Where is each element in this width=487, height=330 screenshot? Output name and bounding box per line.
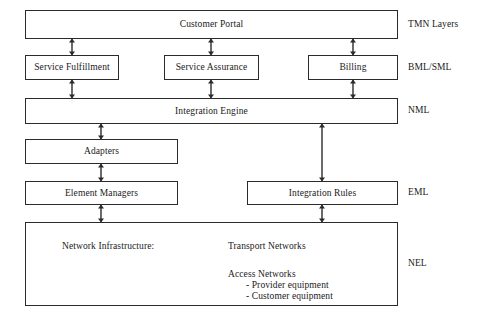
network-infrastructure-list: Transport Networks Access Networks - Pro… [228, 241, 333, 302]
connector-portal-billing [347, 38, 359, 56]
connector-assurance-engine [205, 79, 217, 99]
box-element-managers-label: Element Managers [65, 188, 138, 199]
box-integration-engine-label: Integration Engine [175, 106, 248, 117]
layer-label-bml-sml: BML/SML [408, 62, 451, 72]
layer-label-nml: NML [408, 105, 429, 115]
box-billing[interactable]: Billing [308, 55, 398, 80]
network-infrastructure-content: Network Infrastructure: Transport Networ… [26, 223, 397, 305]
tmn-architecture-diagram: Customer Portal Service Fulfillment Serv… [0, 0, 487, 330]
customer-equipment-label: - Customer equipment [228, 291, 333, 302]
connector-fulfillment-engine [66, 79, 78, 99]
box-adapters-label: Adapters [84, 146, 119, 157]
box-service-assurance[interactable]: Service Assurance [164, 55, 259, 80]
connector-billing-engine [347, 79, 359, 99]
box-customer-portal[interactable]: Customer Portal [25, 10, 398, 39]
layer-label-tmn: TMN Layers [408, 19, 458, 29]
box-integration-rules-label: Integration Rules [289, 188, 356, 199]
provider-equipment-label: - Provider equipment [228, 280, 333, 291]
connector-rules-infrastructure [316, 204, 328, 223]
box-integration-rules[interactable]: Integration Rules [247, 181, 398, 205]
box-element-managers[interactable]: Element Managers [25, 181, 178, 205]
access-networks-label: Access Networks [228, 269, 333, 280]
connector-element-managers-infrastructure [95, 204, 107, 223]
box-billing-label: Billing [339, 62, 366, 73]
box-service-fulfillment[interactable]: Service Fulfillment [25, 55, 119, 80]
connector-adapters-element-managers [95, 163, 107, 182]
box-service-fulfillment-label: Service Fulfillment [34, 62, 110, 73]
spacer [228, 252, 333, 269]
transport-networks-label: Transport Networks [228, 241, 333, 252]
connector-portal-assurance [205, 38, 217, 56]
box-service-assurance-label: Service Assurance [176, 62, 248, 73]
layer-label-eml: EML [408, 187, 428, 197]
box-adapters[interactable]: Adapters [25, 139, 178, 164]
connector-engine-adapters [95, 123, 107, 140]
connector-portal-fulfillment [66, 38, 78, 56]
layer-label-nel: NEL [408, 258, 427, 268]
box-customer-portal-label: Customer Portal [180, 19, 244, 30]
connector-engine-rules [316, 123, 328, 182]
network-infrastructure-title: Network Infrastructure: [62, 241, 154, 252]
box-network-infrastructure[interactable]: Network Infrastructure: Transport Networ… [25, 222, 398, 306]
box-integration-engine[interactable]: Integration Engine [25, 98, 398, 124]
